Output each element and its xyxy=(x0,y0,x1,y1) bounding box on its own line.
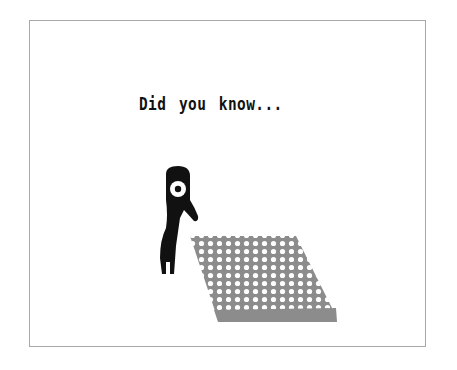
creature-icon xyxy=(160,166,198,274)
tip-illustration xyxy=(0,0,457,370)
field-patch xyxy=(190,236,337,322)
